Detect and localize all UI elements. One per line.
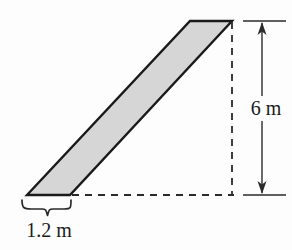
geometry-figure xyxy=(0,0,292,250)
parallelogram-shape xyxy=(27,21,232,195)
base-dimension-label: 1.2 m xyxy=(8,220,90,240)
diagram-canvas: 6 m 1.2 m xyxy=(0,0,292,250)
height-dimension-label: 6 m xyxy=(243,96,289,120)
base-curly-brace-icon xyxy=(22,200,71,216)
